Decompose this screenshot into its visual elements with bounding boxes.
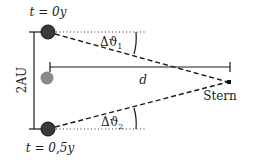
baseline-measure [29,32,41,129]
distance-label: d [139,73,147,87]
baseline-label: 2AU [15,67,29,93]
time-label-top: t = 0y [30,5,67,19]
angle-label-2: Δϑ2 [101,115,123,131]
earth-t05-icon [41,122,55,136]
distance-measure [50,62,230,72]
sun-icon [41,72,54,85]
time-label-bottom: t = 0,5y [26,141,75,155]
angle-label-1: Δϑ1 [100,35,122,51]
parallax-diagram: 2AU d Δϑ1 Δϑ2 Stern t = 0y t = 0,5y [0,0,253,160]
star-label: Stern [203,89,237,103]
sight-line-bottom [55,82,228,127]
earth-t0-icon [41,25,55,39]
star-icon [227,80,231,84]
angle-arc-1 [134,32,136,54]
angle-arc-2 [134,108,136,129]
